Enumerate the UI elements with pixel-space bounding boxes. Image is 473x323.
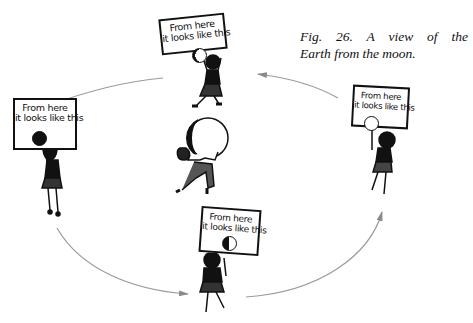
caption-line-1: Fig. 26. A view of the	[300, 28, 468, 45]
girl-bottom	[200, 252, 226, 312]
caption-line-2: Earth from the moon.	[300, 45, 468, 62]
phase-full-moon-icon	[364, 116, 379, 131]
girl-left	[42, 140, 62, 216]
sign-top: From here it looks like this	[158, 13, 227, 56]
figure-stage: Fig. 26. A view of the Earth from the mo…	[0, 0, 473, 323]
figure-caption: Fig. 26. A view of the Earth from the mo…	[300, 28, 468, 62]
phase-full-sliver-icon	[192, 48, 207, 63]
phase-new-moon-icon	[32, 131, 47, 146]
sign-right: From here it looks like this	[351, 85, 410, 130]
phase-half-moon-icon	[222, 236, 237, 251]
man-with-globe	[176, 118, 228, 194]
sign-right-line2: it looks like this	[354, 100, 407, 113]
sign-left-line2: it looks like this	[15, 113, 75, 123]
girl-right	[372, 130, 395, 194]
